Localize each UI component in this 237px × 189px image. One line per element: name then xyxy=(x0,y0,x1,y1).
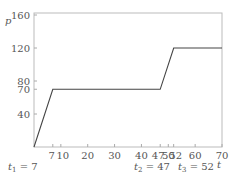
y-tick-label: 160 xyxy=(11,10,30,21)
plot-frame xyxy=(34,13,222,147)
x-tick-label: 40 xyxy=(135,150,148,161)
x-tick-label: 52 xyxy=(169,150,182,161)
x-tick-label: 30 xyxy=(108,150,121,161)
annotations: t1 = 7t2 = 47t3 = 52 xyxy=(8,161,214,174)
x-tick-label: 20 xyxy=(81,150,94,161)
time-annotation: t3 = 52 xyxy=(178,161,214,174)
x-tick-label: 10 xyxy=(56,150,69,161)
series-line xyxy=(34,48,222,147)
line-chart: 407080120160 7102030404750526070 p t t1 … xyxy=(0,0,237,189)
x-tick-label: 60 xyxy=(189,150,202,161)
y-tick-label: 40 xyxy=(17,109,30,120)
time-annotation: t2 = 47 xyxy=(134,161,170,174)
y-axis-ticks: 407080120160 xyxy=(11,10,37,120)
y-axis-label: p xyxy=(5,15,12,26)
time-annotation: t1 = 7 xyxy=(8,161,38,174)
x-tick-label: 7 xyxy=(49,150,55,161)
y-tick-label: 120 xyxy=(11,43,30,54)
y-tick-label: 80 xyxy=(17,76,30,87)
